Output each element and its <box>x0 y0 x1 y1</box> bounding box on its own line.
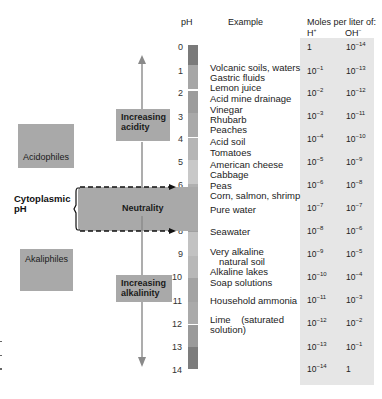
h-concentration: 10−7 <box>307 203 323 213</box>
arrow-ph6-icon <box>169 184 176 190</box>
cytoplasmic-ph-label: Cytoplasmic pH <box>14 194 71 214</box>
example-item: Acid mine drainage <box>210 94 291 104</box>
edge-mark <box>0 341 2 342</box>
oh-concentration: 10−11 <box>346 111 365 121</box>
oh-concentration: 10−7 <box>346 203 362 213</box>
example-item: solution) <box>210 325 246 335</box>
example-item: Corn, salmon, shrimp <box>210 191 300 201</box>
acidophiles-box: Acidophiles <box>18 124 74 168</box>
h-concentration: 10−3 <box>307 111 323 121</box>
increasing-acidity-box: Increasing acidity <box>116 109 170 141</box>
up-arrowhead-icon <box>138 55 146 64</box>
edge-mark <box>0 355 2 356</box>
akaliphiles-label: Akaliphiles <box>20 254 73 264</box>
increasing-alkalinity-label-2: alkalinity <box>121 288 172 298</box>
increasing-alkalinity-box: Increasing alkalinity <box>116 275 172 302</box>
h-concentration: 10−12 <box>307 318 327 328</box>
oh-concentration: 10−2 <box>346 318 362 328</box>
example-item: Seawater <box>210 227 250 237</box>
example-item: Alkaline lakes <box>210 267 268 277</box>
neutrality-label: Neutrality <box>122 203 164 213</box>
example-item: Soap solutions <box>210 278 272 288</box>
example-item: Cabbage <box>210 170 249 180</box>
h-concentration: 10−14 <box>307 364 327 374</box>
h-concentration: 1 <box>307 42 312 52</box>
example-item: Pure water <box>210 205 256 215</box>
oh-concentration: 1 <box>346 364 351 374</box>
h-concentration: 10−13 <box>307 342 327 352</box>
oh-concentration: 10−3 <box>346 295 362 305</box>
example-item: Lemon juice <box>210 83 261 93</box>
arrow-ph8-icon <box>169 228 176 234</box>
oh-concentration: 10−5 <box>346 249 362 259</box>
oh-concentration: 10−8 <box>346 180 362 190</box>
increasing-acidity-label-1: Increasing <box>121 112 170 122</box>
h-concentration: 10−2 <box>307 88 323 98</box>
h-concentration: 10−10 <box>307 272 327 282</box>
akaliphiles-box: Akaliphiles <box>20 249 73 291</box>
example-item: Acid soil <box>210 137 245 147</box>
oh-concentration: 10−13 <box>346 66 366 76</box>
oh-concentration: 10−6 <box>346 226 362 236</box>
oh-concentration: 10−1 <box>346 342 362 352</box>
example-item: Tomatoes <box>210 148 251 158</box>
oh-concentration: 10−12 <box>346 88 366 98</box>
example-item: Household ammonia <box>210 296 297 306</box>
oh-concentration: 10−4 <box>346 272 362 282</box>
h-concentration: 10−8 <box>307 226 323 236</box>
edge-mark <box>0 368 2 370</box>
oh-concentration: 10−14 <box>346 42 366 52</box>
h-concentration: 10−6 <box>307 180 323 190</box>
example-item: Peaches <box>210 125 247 135</box>
down-arrowhead-icon <box>138 357 146 367</box>
cytoplasmic-label-2: pH <box>14 204 71 214</box>
h-concentration: 10−11 <box>307 295 326 305</box>
h-concentration: 10−1 <box>307 66 323 76</box>
oh-concentration: 10−10 <box>346 134 366 144</box>
acidophiles-label: Acidophiles <box>18 152 74 162</box>
increasing-alkalinity-label-1: Increasing <box>121 278 172 288</box>
h-concentration: 10−5 <box>307 157 323 167</box>
oh-concentration: 10−9 <box>346 157 362 167</box>
h-concentration: 10−9 <box>307 249 323 259</box>
h-concentration: 10−4 <box>307 134 323 144</box>
increasing-acidity-label-2: acidity <box>121 122 170 132</box>
